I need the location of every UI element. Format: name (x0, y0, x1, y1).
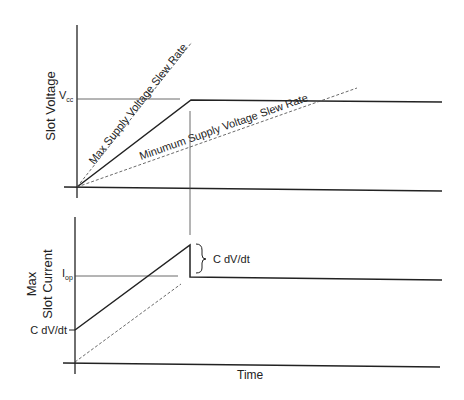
cdvdt-axis-label: C dV/dt (30, 324, 67, 336)
bottom-plot: C dV/dt Max Slot Current Iop C dV/dt Tim… (24, 217, 442, 382)
bottom-x-axis (63, 363, 440, 367)
power-sequencing-diagram: Slot Voltage Vcc Max Supply Voltage Slew… (0, 0, 464, 400)
brace-label: C dV/dt (213, 253, 250, 265)
vcc-label: Vcc (59, 89, 74, 103)
brace-icon (196, 244, 206, 273)
top-plot: Slot Voltage Vcc Max Supply Voltage Slew… (43, 25, 442, 198)
time-axis-label: Time (237, 368, 264, 382)
min-slew-label: Minumum Supply Voltage Slew Rate (138, 91, 310, 162)
inrush-dashed-line (75, 284, 181, 362)
top-y-axis-label: Slot Voltage (43, 71, 58, 140)
bottom-y-axis-label-line2: Slot Current (40, 249, 55, 319)
bottom-y-axis-label-line1: Max (24, 271, 39, 296)
top-x-axis (64, 187, 442, 191)
slot-current-curve (75, 245, 442, 330)
min-slew-dashed-line (77, 88, 357, 187)
iop-label: Iop (62, 267, 73, 282)
